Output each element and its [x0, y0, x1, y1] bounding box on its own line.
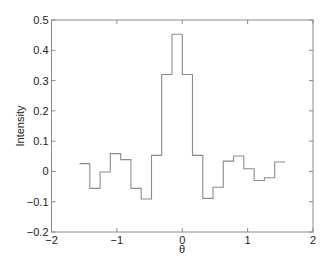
y-tick-label: −0.1	[27, 196, 49, 208]
y-tick-label: 0.2	[33, 105, 48, 117]
y-tick-label: 0.3	[33, 75, 48, 87]
x-tick-label: 1	[245, 234, 251, 246]
step-chart: −2−1012−0.2−0.100.10.20.30.40.5 θ Intens…	[0, 0, 333, 266]
y-tick-label: −0.2	[27, 226, 49, 238]
axis-tick-labels: −2−1012−0.2−0.100.10.20.30.40.5	[27, 14, 316, 246]
data-series	[80, 34, 286, 199]
y-tick-label: 0.1	[33, 135, 48, 147]
x-tick-label: 2	[310, 234, 316, 246]
y-tick-label: 0.4	[33, 44, 48, 56]
y-axis-label: Intensity	[14, 105, 26, 146]
y-tick-label: 0.5	[33, 14, 48, 26]
x-tick-label: −1	[111, 234, 124, 246]
stairs-line	[80, 34, 286, 199]
y-tick-label: 0	[42, 165, 48, 177]
x-axis-label: θ	[179, 243, 185, 255]
